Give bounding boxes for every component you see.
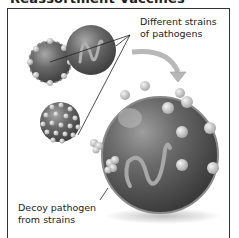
strains-label-line-1: Different strains (140, 16, 217, 28)
decoy-label-line-2: from strains (18, 214, 96, 226)
decoy-label-line-1: Decoy pathogen (18, 202, 96, 214)
decoy-pathogen-sphere-icon (90, 81, 219, 213)
curved-arrow-icon (132, 51, 186, 82)
strains-label-line-2: of pathogens (140, 28, 217, 40)
strain-sphere-rna-icon (66, 25, 116, 75)
strains-label: Different strains of pathogens (140, 16, 217, 40)
strain-sphere-dotted-icon (40, 102, 81, 144)
decoy-label: Decoy pathogen from strains (18, 202, 96, 226)
